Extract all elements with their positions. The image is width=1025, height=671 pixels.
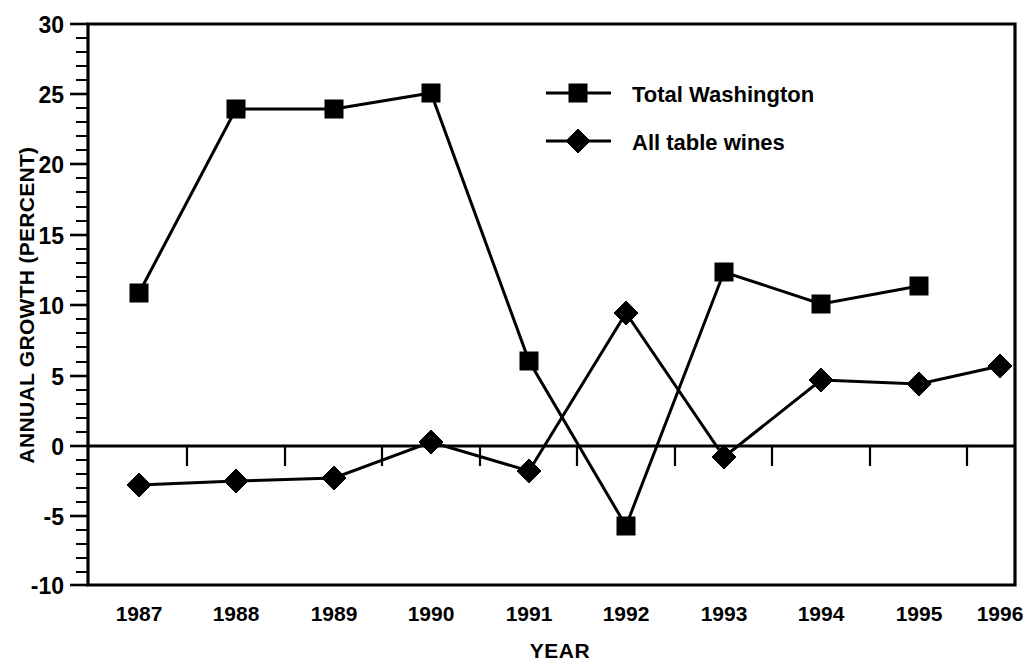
diamond-marker-icon [566, 129, 590, 153]
y-tick-label: -10 [31, 573, 64, 599]
y-tick-label: -5 [44, 504, 65, 530]
y-tick-label: 15 [38, 223, 64, 249]
y-tick-label: 25 [38, 82, 64, 108]
x-tick-label: 1989 [311, 602, 358, 625]
data-point-marker [517, 459, 541, 483]
data-point-marker [715, 263, 733, 281]
legend-label: All table wines [632, 130, 785, 155]
data-point-marker [617, 517, 635, 535]
x-axis-ticks [187, 446, 967, 466]
x-tick-label: 1993 [701, 602, 748, 625]
data-point-marker [419, 430, 443, 454]
x-tick-label: 1988 [213, 602, 260, 625]
x-tick-label: 1992 [603, 602, 650, 625]
data-point-marker [988, 354, 1012, 378]
x-tick-label: 1995 [896, 602, 943, 625]
x-tick-label: 1987 [116, 602, 163, 625]
legend-entry-total-washington: Total Washington [546, 82, 814, 107]
y-tick-label: 10 [38, 293, 64, 319]
x-tick-label: 1996 [977, 602, 1024, 625]
data-point-marker [325, 100, 343, 118]
x-tick-label: 1991 [506, 602, 553, 625]
data-point-marker [227, 100, 245, 118]
data-point-marker [910, 277, 928, 295]
data-point-marker [224, 469, 248, 493]
y-tick-label: 0 [51, 434, 64, 460]
legend-label: Total Washington [632, 82, 814, 107]
chart-figure: ANNUAL GROWTH (PERCENT) [0, 0, 1025, 671]
square-marker-icon [569, 84, 587, 102]
data-point-marker [812, 295, 830, 313]
x-axis-title: YEAR [530, 639, 590, 662]
data-point-marker [520, 352, 538, 370]
y-tick-label: 20 [38, 152, 64, 178]
data-point-marker [614, 301, 638, 325]
y-tick-label: 5 [51, 364, 64, 390]
x-axis-tick-labels: 1987 1988 1989 1990 1991 1992 1993 1994 … [116, 602, 1024, 625]
data-point-marker [127, 473, 151, 497]
y-axis-title: ANNUAL GROWTH (PERCENT) [15, 147, 38, 464]
series-all-table-wines [127, 301, 1012, 497]
x-tick-label: 1994 [798, 602, 845, 625]
chart-legend: Total Washington All table wines [546, 82, 814, 155]
y-tick-label: 30 [38, 12, 64, 38]
data-point-marker [422, 84, 440, 102]
data-point-marker [322, 466, 346, 490]
chart-svg: ANNUAL GROWTH (PERCENT) [0, 0, 1025, 671]
data-point-marker [907, 372, 931, 396]
x-tick-label: 1990 [408, 602, 455, 625]
legend-entry-all-table-wines: All table wines [546, 129, 785, 155]
data-point-marker [130, 284, 148, 302]
